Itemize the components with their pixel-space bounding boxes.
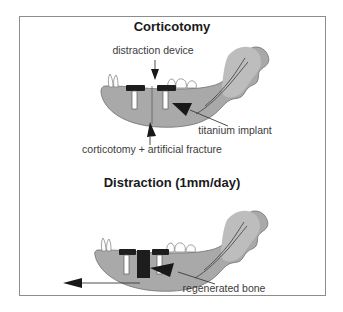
ramus-shading: [222, 47, 261, 98]
device-plate-anterior-distracted: [119, 249, 136, 255]
tooth-posterior-2: [176, 79, 187, 88]
panel-corticotomy: Corticotomy: [82, 19, 272, 155]
tooth-anterior-1: [108, 74, 113, 87]
tooth-anterior-2: [114, 75, 118, 87]
tooth-posterior-2-distracted: [175, 243, 186, 252]
device-plate-anterior: [126, 85, 145, 91]
panel-title-corticotomy: Corticotomy: [134, 19, 211, 34]
titanium-post-anterior: [132, 91, 137, 109]
arrowhead-distraction-device: [151, 69, 159, 80]
device-plate-posterior: [157, 85, 176, 91]
tooth-posterior-3-distracted: [186, 245, 195, 252]
distraction-direction-arrowhead: [63, 278, 82, 288]
ramus-shading-distracted: [221, 211, 260, 262]
label-titanium-implant: titanium implant: [198, 124, 272, 136]
label-corticotomy-fracture: corticotomy + artificial fracture: [82, 143, 222, 155]
mandibular-distraction-figure: Corticotomy: [0, 0, 343, 312]
tooth-anterior-2-distracted: [107, 239, 111, 251]
titanium-post-posterior: [163, 91, 168, 109]
device-plate-posterior-distracted: [152, 249, 169, 255]
panel-title-distraction: Distraction (1mm/day): [104, 175, 241, 190]
label-regenerated-bone: regenerated bone: [183, 282, 266, 294]
label-distraction-device: distraction device: [112, 44, 193, 56]
regenerated-bone-block: [137, 250, 150, 278]
panel-distraction: Distraction (1mm/day): [63, 175, 268, 294]
titanium-post-anterior-distracted: [124, 255, 129, 274]
tooth-posterior-3: [187, 81, 196, 88]
tooth-anterior-1-distracted: [101, 238, 106, 251]
